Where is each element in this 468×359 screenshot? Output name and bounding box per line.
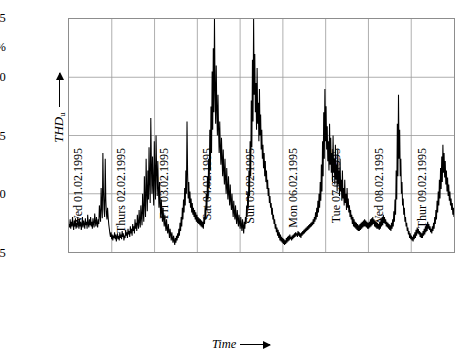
y-axis-unit-label: % — [0, 41, 6, 54]
x-tick-label: Wed 01.02.1995 — [72, 148, 84, 258]
y-tick-label: 2.5 — [0, 12, 6, 25]
x-tick-label: Fri 03.02.1995 — [158, 148, 170, 258]
x-tick-label: Thur 09.02.1995 — [416, 148, 428, 258]
x-tick-label: Wed 08.02.1995 — [373, 148, 385, 258]
x-axis-title: Time — [212, 337, 270, 352]
x-axis-arrow-icon — [240, 344, 270, 345]
chart-figure: THDu % Time 0.51.01.52.02.5Wed 01.02.199… — [0, 0, 468, 359]
y-tick-label: 0.5 — [0, 247, 6, 260]
x-axis-title-text: Time — [212, 337, 236, 351]
x-tick-label: Sun 05.02.1995 — [244, 148, 256, 258]
x-tick-label: Mon 06.02.1995 — [287, 148, 299, 258]
y-axis-title-subscript: u — [57, 112, 67, 117]
x-tick-label: Tue 07.02.1995 — [330, 148, 342, 258]
y-axis-title: THDu — [51, 43, 67, 173]
y-tick-label: 1.0 — [0, 188, 6, 201]
x-tick-label: Thurs 02.02.1995 — [115, 148, 127, 258]
y-axis-arrow-icon — [59, 73, 60, 107]
y-tick-label: 2.0 — [0, 71, 6, 84]
x-tick-label: Sat 04.02.1995 — [201, 148, 213, 258]
y-axis-title-text: THD — [51, 117, 66, 143]
y-tick-label: 1.5 — [0, 130, 6, 143]
